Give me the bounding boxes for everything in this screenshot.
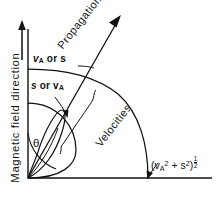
outer-lobe-label: vA or s: [33, 54, 66, 65]
theta-angle-label: θ: [33, 138, 39, 150]
fast-mode-speed-formula: (vA2 + s2)12: [151, 156, 197, 173]
inner-lobe-tail: or v: [37, 80, 59, 91]
friedrichs-diagram: Magnetic field direction vA or s s or vA…: [0, 0, 218, 199]
formula-open: (v: [151, 159, 160, 171]
inner-lobe-subscript: A: [59, 84, 64, 91]
velocities-bracket: [60, 90, 96, 154]
formula-half-exponent: 12: [194, 156, 198, 169]
propagation-arrow-icon: [28, 15, 121, 178]
formula-plus: + s: [168, 159, 185, 171]
vertical-axis-title: Magnetic field direction: [10, 43, 21, 193]
inner-lobe-label: s or vA: [31, 81, 64, 92]
inner-lobe-leader-line: [55, 97, 69, 118]
formula-close: ): [190, 159, 194, 171]
outer-lobe-tail: or s: [44, 53, 66, 64]
formula-exp-denominator: 2: [194, 162, 198, 169]
